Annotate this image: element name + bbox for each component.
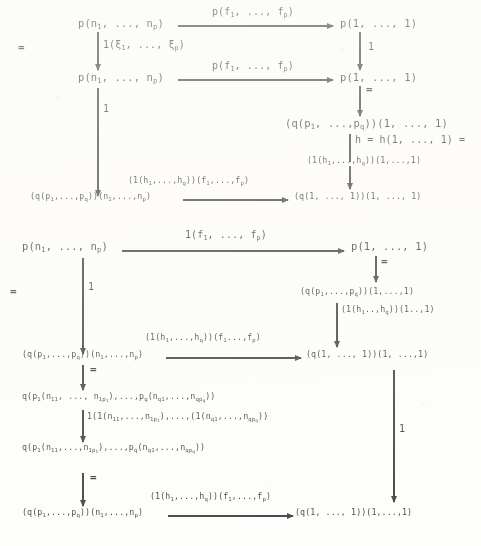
equals-mark-lower-mid-1: =: [90, 364, 97, 376]
arrow-lower-expand-in: [82, 365, 84, 390]
equals-mark-lower-mid-2: =: [90, 472, 97, 484]
arrow-lower-left-vertical-1: [82, 258, 84, 354]
arrow-label-upper-right-vertical-3b: (1(h1,...,hq))(1,...,1): [307, 156, 421, 165]
node-lower-bottom-right: (q(1, ..., 1))(1,...,1): [295, 508, 412, 517]
node-lower-top-right: p(1, ..., 1): [351, 241, 428, 252]
arrow-lower-right-vertical-2: [336, 325, 338, 347]
node-lower-expand-2: q(p1(n11,...,n1p1),...,pq(nq1,...,nqpq)): [22, 443, 205, 452]
arrow-lower-bottom-horizontal: [168, 515, 293, 517]
equals-mark-upper-right: =: [366, 84, 373, 96]
node-lower-expand-1: q(p1(n11, ..., n1p1),...,pq(nq1,...,nqpq…: [22, 392, 215, 401]
arrow-lower-right-vertical-3: [393, 370, 395, 502]
arrow-label-lower-mid-horizontal: (1(h1,...,hq))(f1...,fp): [145, 333, 261, 342]
node-lower-mid-left: (q(p1,...,pq))(n1,...,np): [22, 350, 143, 359]
arrow-label-lower-right-vertical-2: (1(h1..,hq))(1..,1): [341, 305, 435, 314]
arrow-lower-bottom-vertical: [82, 473, 84, 506]
node-upper-mid-right: p(1, ..., 1): [340, 72, 417, 83]
arrow-lower-mid-horizontal: [166, 357, 301, 359]
arrow-label-upper-left-vertical-2: 1: [103, 104, 109, 115]
equals-mark-left-lower: =: [10, 286, 17, 298]
arrow-label-lower-expand-vertical: 1(1(n11,...,n1p1),...,(1(nq1,...,nqpq)): [87, 412, 268, 421]
arrow-label-lower-right-vertical-3: 1: [399, 424, 405, 435]
arrow-upper-left-vertical-1: [97, 32, 99, 70]
arrow-label-upper-bottom-horizontal: (1(h1,...,hq))(f1,...,fp): [128, 176, 249, 185]
arrow-label-upper-top-horizontal: p(f1, ..., fp): [212, 7, 294, 18]
node-lower-right-2: (q(p1,...,pq))(1,...,1): [300, 287, 414, 296]
arrow-upper-left-vertical-2: [97, 88, 99, 196]
arrow-upper-right-vertical-2: [359, 86, 361, 116]
node-upper-right-3: (q(p1, ...,pq))(1, ..., 1): [285, 118, 448, 129]
arrow-upper-bottom-horizontal: [183, 199, 288, 201]
arrow-label-upper-right-vertical-3: h = h(1, ..., 1) =: [355, 135, 465, 146]
arrow-upper-mid-horizontal: [178, 79, 333, 81]
equals-mark-left-upper: =: [18, 42, 25, 54]
arrow-upper-right-vertical-1: [359, 32, 361, 70]
node-upper-top-left: p(n1, ..., np): [78, 18, 164, 29]
arrow-label-upper-mid-horizontal: p(f1, ..., fp): [212, 61, 294, 72]
node-lower-top-left: p(n1, ..., np): [22, 241, 108, 252]
arrow-lower-right-vertical-1: [375, 256, 377, 282]
arrow-label-lower-left-vertical-1: 1: [88, 282, 94, 293]
node-lower-mid-right: (q(1, ..., 1))(1, ...,1): [306, 350, 428, 359]
node-upper-bottom-right: (q(1, ..., 1))(1, ..., 1): [294, 192, 421, 201]
diagram-page: = p(n1, ..., np) p(f1, ..., fp) p(1, ...…: [0, 0, 481, 546]
arrow-label-lower-top-horizontal: 1(f1, ..., fp): [185, 230, 267, 241]
arrow-lower-top-horizontal: [122, 250, 344, 252]
arrow-upper-top-horizontal: [178, 25, 333, 27]
arrow-upper-right-vertical-3: [349, 166, 351, 189]
arrow-label-upper-left-vertical-1: 1(ξ1, ..., ξp): [103, 40, 185, 51]
equals-mark-lower-right: =: [381, 256, 388, 268]
node-upper-top-right: p(1, ..., 1): [340, 18, 417, 29]
arrow-label-upper-right-vertical-1: 1: [368, 42, 374, 53]
arrow-label-lower-bottom-horizontal: (1(h1,...,hq))(f1,...,fp): [150, 492, 271, 501]
node-lower-bottom-left: (q(p1,...,pq))(n1,...,np): [22, 508, 143, 517]
node-upper-bottom-left: (q(p1,...,pq))(n1,...,np): [30, 192, 151, 201]
arrow-lower-expand-out: [82, 424, 84, 442]
node-upper-mid-left: p(n1, ..., np): [78, 72, 164, 83]
